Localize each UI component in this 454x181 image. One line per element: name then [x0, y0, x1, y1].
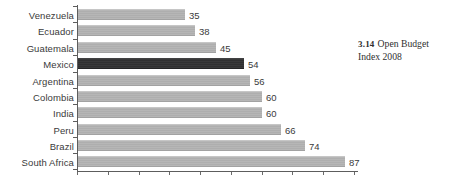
bar-value-label: 87 — [349, 157, 360, 168]
bar-value-label: 56 — [254, 76, 265, 87]
bar-value-label: 66 — [285, 125, 296, 136]
bar-argentina[interactable] — [78, 75, 250, 86]
bar-india[interactable] — [78, 107, 262, 118]
bar-guatemala[interactable] — [78, 42, 216, 53]
bar-value-label: 54 — [248, 59, 259, 70]
figure-caption: 3.14Open Budget Index 2008 — [358, 38, 452, 63]
figure-open-budget-index: Venezuela Ecuador Guatemala Mexico Argen… — [0, 0, 454, 181]
bar-south-africa[interactable] — [78, 156, 345, 167]
bar-value-label: 74 — [309, 141, 320, 152]
bar-colombia[interactable] — [78, 91, 262, 102]
bar-value-label: 35 — [189, 10, 200, 21]
bars-layer: 35 38 45 54 56 60 60 66 74 87 — [0, 0, 360, 181]
bar-peru[interactable] — [78, 124, 281, 135]
bar-ecuador[interactable] — [78, 25, 195, 36]
figure-number: 3.14 — [358, 39, 375, 49]
bar-value-label: 60 — [266, 92, 277, 103]
bar-chart: Venezuela Ecuador Guatemala Mexico Argen… — [0, 0, 360, 181]
bar-mexico[interactable] — [78, 58, 244, 69]
bar-value-label: 38 — [199, 26, 210, 37]
bar-brazil[interactable] — [78, 140, 305, 151]
bar-value-label: 45 — [220, 43, 231, 54]
bar-value-label: 60 — [266, 108, 277, 119]
bar-venezuela[interactable] — [78, 9, 185, 20]
